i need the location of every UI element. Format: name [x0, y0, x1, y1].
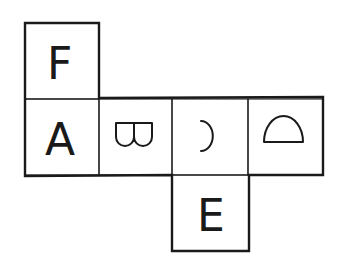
face-B-square: [99, 99, 172, 175]
face-B-glyph: [116, 123, 152, 146]
face-A: A: [25, 99, 99, 175]
face-D-glyph: [264, 116, 303, 142]
cube-net-diagram: F A E: [0, 0, 339, 272]
face-C-glyph: [201, 121, 213, 151]
face-C: [172, 99, 248, 175]
face-A-label: A: [45, 114, 75, 165]
face-B: [99, 99, 172, 175]
face-D: [248, 99, 323, 175]
face-F-label: F: [47, 38, 72, 89]
face-E: E: [172, 175, 249, 251]
face-C-square: [172, 99, 248, 175]
face-F: F: [25, 23, 99, 99]
face-D-square: [248, 99, 323, 175]
face-E-label: E: [197, 190, 225, 241]
